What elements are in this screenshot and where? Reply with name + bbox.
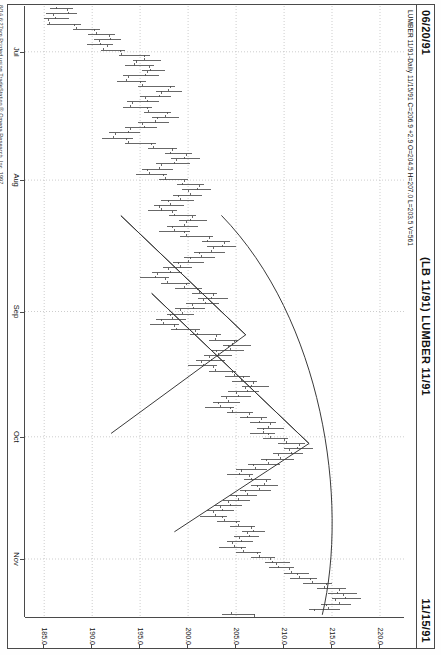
price-axis-tick	[283, 644, 284, 648]
chart-header: 06/20/91 (LB 11/91) LUMBER 11/91 11/15/9…	[416, 5, 434, 648]
end-date-label: 11/15/91	[420, 598, 432, 643]
date-axis: JulAugSepOctNov	[8, 6, 25, 617]
ohlc-bars-svg	[25, 6, 404, 617]
price-axis-tick	[187, 644, 188, 648]
price-axis: 220.0215.0210.0205.0200.0195.0190.0185.0	[25, 617, 404, 648]
price-axis-tick-label: 200.0	[185, 627, 192, 645]
printed-chart-page: 06/20/91 (LB 11/91) LUMBER 11/91 11/15/9…	[0, 0, 441, 655]
price-axis-tick-label: 210.0	[281, 627, 288, 645]
price-axis-tick	[379, 644, 380, 648]
price-axis-tick-label: 220.0	[377, 627, 384, 645]
price-axis-tick-label: 205.0	[233, 627, 240, 645]
date-axis-tick	[20, 437, 24, 438]
price-axis-tick-label: 190.0	[89, 627, 96, 645]
chart-frame: 06/20/91 (LB 11/91) LUMBER 11/91 11/15/9…	[7, 4, 435, 649]
price-axis-tick-label: 195.0	[137, 627, 144, 645]
price-plot-area[interactable]	[25, 6, 404, 617]
price-axis-tick	[331, 644, 332, 648]
date-axis-tick	[20, 559, 24, 560]
price-axis-tick	[91, 644, 92, 648]
price-axis-tick-label: 215.0	[329, 627, 336, 645]
price-axis-tick	[139, 644, 140, 648]
price-axis-tick	[235, 644, 236, 648]
date-axis-tick	[20, 52, 24, 53]
price-axis-tick-label: 185.0	[41, 627, 48, 645]
date-axis-tick	[20, 180, 24, 181]
chart-title: (LB 11/91) LUMBER 11/91	[420, 5, 432, 648]
print-copyright-note: 8/14 6:27am Printed using TradeStation ®…	[0, 5, 4, 184]
rotated-landscape-chart: 06/20/91 (LB 11/91) LUMBER 11/91 11/15/9…	[0, 0, 441, 655]
date-axis-tick	[20, 312, 24, 313]
quote-status-line: LUMBER 11/91-Daily 11/15/91 C=206.9 +2.9…	[407, 10, 414, 246]
price-axis-tick	[43, 644, 44, 648]
